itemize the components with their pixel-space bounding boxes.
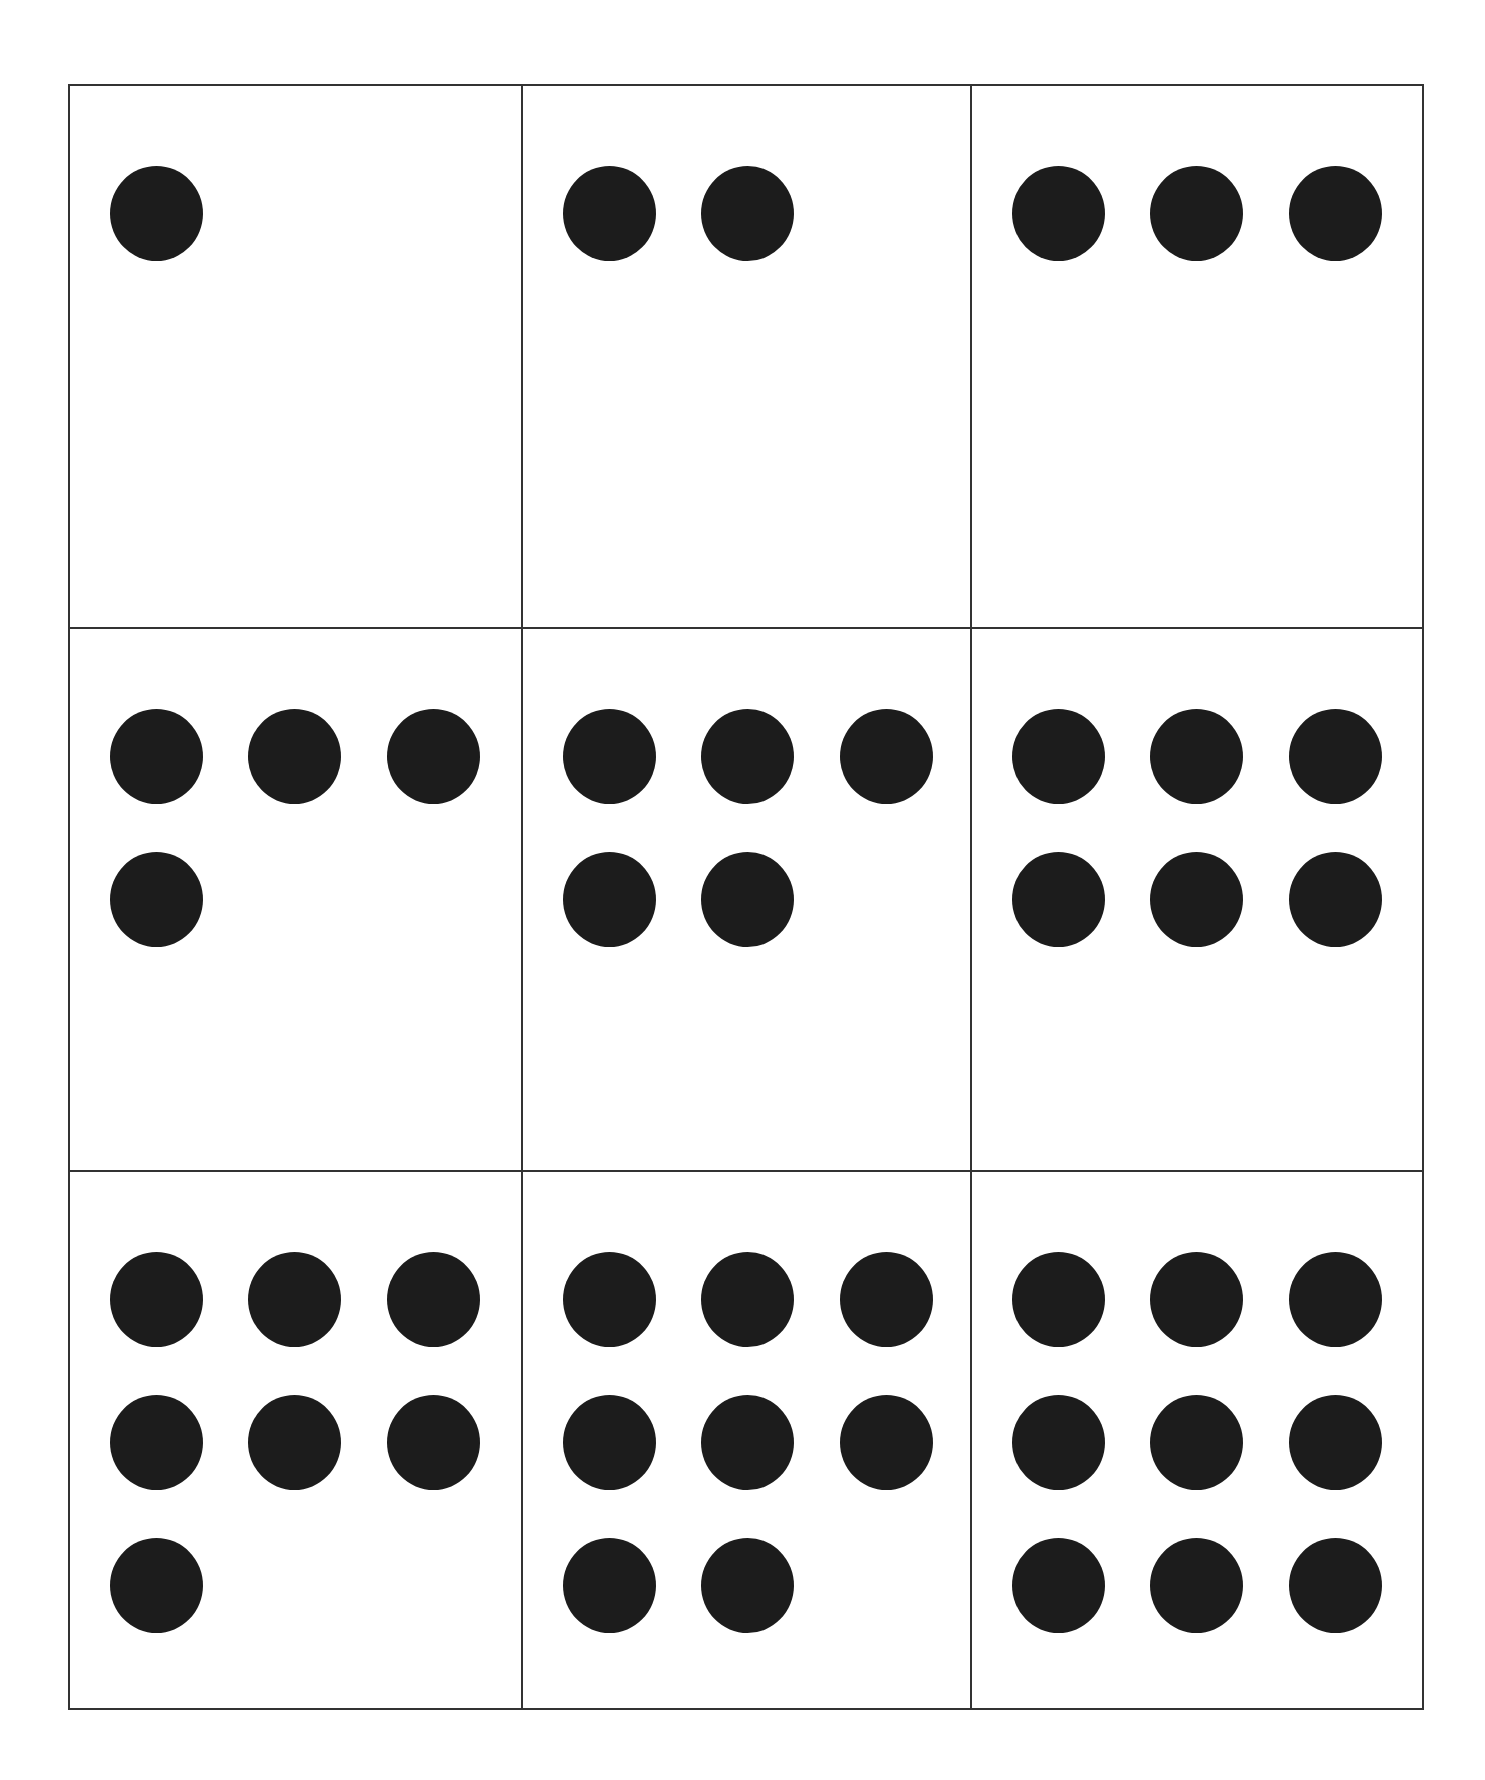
dot-icon xyxy=(1150,709,1243,804)
dot-icon xyxy=(110,1395,203,1490)
dot-icon xyxy=(1289,1538,1382,1633)
dot-card-3: 3 xyxy=(972,86,1422,629)
dot-icon xyxy=(110,166,203,261)
dot-icon xyxy=(840,1252,933,1347)
dot-card-7: 7 xyxy=(70,1172,523,1708)
dot-icon xyxy=(1012,1395,1105,1490)
card-count: 6 xyxy=(972,629,973,630)
dot-icon xyxy=(1012,1538,1105,1633)
card-count: 7 xyxy=(70,1172,71,1173)
dot-icon xyxy=(701,709,794,804)
dot-icon xyxy=(1012,852,1105,947)
card-count: 1 xyxy=(70,86,71,87)
dot-icon xyxy=(563,1395,656,1490)
dot-icon xyxy=(1012,1252,1105,1347)
dot-icon xyxy=(1012,709,1105,804)
dot-card-9: 9 xyxy=(972,1172,1422,1708)
dot-icon xyxy=(701,1538,794,1633)
dot-icon xyxy=(110,709,203,804)
dot-icon xyxy=(1012,166,1105,261)
dot-card-6: 6 xyxy=(972,629,1422,1172)
dot-card-5: 5 xyxy=(523,629,972,1172)
dot-card-8: 8 xyxy=(523,1172,972,1708)
dot-icon xyxy=(1289,1395,1382,1490)
dot-icon xyxy=(840,1395,933,1490)
dot-icon xyxy=(387,709,480,804)
dot-icon xyxy=(1150,166,1243,261)
dot-icon xyxy=(563,1538,656,1633)
dot-icon xyxy=(248,1252,341,1347)
dot-card-2: 2 xyxy=(523,86,972,629)
card-count: 5 xyxy=(523,629,524,630)
dot-icon xyxy=(1150,1395,1243,1490)
card-count: 9 xyxy=(972,1172,973,1173)
dot-icon xyxy=(701,1252,794,1347)
dot-icon xyxy=(1150,1252,1243,1347)
dot-icon xyxy=(110,852,203,947)
card-count: 2 xyxy=(523,86,524,87)
dot-card-grid: 1 2 3 4 5 6 7 8 9 xyxy=(68,84,1424,1710)
dot-icon xyxy=(1289,166,1382,261)
dot-icon xyxy=(840,709,933,804)
dot-icon xyxy=(701,1395,794,1490)
dot-icon xyxy=(1150,852,1243,947)
dot-icon xyxy=(387,1395,480,1490)
dot-icon xyxy=(701,166,794,261)
dot-icon xyxy=(1150,1538,1243,1633)
dot-icon xyxy=(1289,1252,1382,1347)
dot-icon xyxy=(387,1252,480,1347)
card-count: 4 xyxy=(70,629,71,630)
dot-icon xyxy=(1289,852,1382,947)
card-count: 8 xyxy=(523,1172,524,1173)
card-count: 3 xyxy=(972,86,973,87)
dot-icon xyxy=(248,1395,341,1490)
dot-card-1: 1 xyxy=(70,86,523,629)
dot-icon xyxy=(110,1252,203,1347)
dot-card-4: 4 xyxy=(70,629,523,1172)
dot-icon xyxy=(248,709,341,804)
dot-icon xyxy=(563,166,656,261)
dot-icon xyxy=(701,852,794,947)
dot-icon xyxy=(1289,709,1382,804)
dot-icon xyxy=(110,1538,203,1633)
dot-icon xyxy=(563,709,656,804)
dot-icon xyxy=(563,1252,656,1347)
dot-icon xyxy=(563,852,656,947)
